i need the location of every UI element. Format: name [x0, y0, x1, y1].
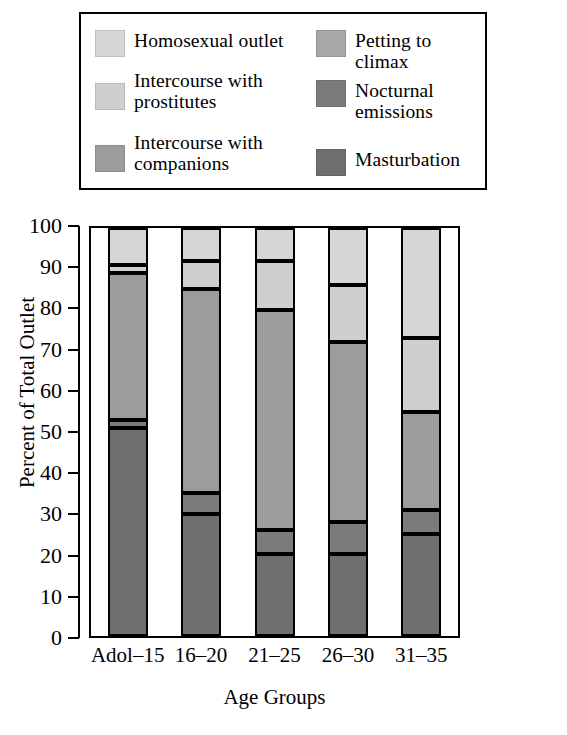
y-axis-tick-label: 0 — [22, 627, 62, 649]
bar-segment — [255, 554, 295, 636]
stacked-bar — [255, 228, 295, 636]
legend-swatch-intercourse-companions — [95, 145, 125, 172]
bar-segment — [401, 338, 441, 411]
bar-segment — [328, 522, 368, 555]
legend-item-nocturnal-emissions: Nocturnal emissions — [316, 80, 486, 122]
bar-segment — [255, 261, 295, 310]
bar-segment — [108, 228, 148, 265]
bar-segment — [255, 228, 295, 261]
bar-segment — [181, 514, 221, 636]
plot-frame — [89, 226, 460, 638]
stacked-bar-plot-area — [91, 228, 458, 636]
legend-swatch-masturbation — [316, 149, 346, 176]
x-axis-tick-label: 31–35 — [376, 643, 466, 668]
y-axis-title: Percent of Total Outlet — [15, 268, 40, 518]
legend-item-intercourse-prostitutes: Intercourse with prostitutes — [95, 70, 263, 112]
x-axis-title: Age Groups — [89, 685, 460, 710]
bar-segment — [108, 428, 148, 636]
bar-segment — [328, 554, 368, 636]
legend-box: Homosexual outlet Intercourse with prost… — [79, 12, 487, 190]
y-axis-tick-label: 20 — [22, 545, 62, 567]
legend-column-right: Petting to climax Nocturnal emissions Ma… — [316, 14, 486, 188]
y-axis-tick — [68, 431, 79, 433]
legend-swatch-nocturnal-emissions — [316, 80, 346, 107]
legend-label-homosexual-outlet: Homosexual outlet — [134, 30, 284, 51]
legend-item-petting-to-climax: Petting to climax — [316, 30, 486, 72]
legend-column-left: Homosexual outlet Intercourse with prost… — [95, 14, 310, 188]
legend-swatch-intercourse-prostitutes — [95, 83, 125, 110]
legend-swatch-petting-to-climax — [316, 30, 346, 57]
y-axis-tick — [68, 349, 79, 351]
legend-label-masturbation: Masturbation — [355, 149, 460, 170]
bar-segment — [181, 228, 221, 261]
stacked-bar — [108, 228, 148, 636]
stacked-bar — [401, 228, 441, 636]
y-axis-tick — [68, 637, 79, 639]
y-axis-tick — [68, 266, 79, 268]
bar-segment — [401, 534, 441, 636]
legend-item-intercourse-companions: Intercourse with companions — [95, 132, 263, 174]
y-axis-tick-label: 100 — [22, 215, 62, 237]
y-axis-tick — [68, 225, 79, 227]
y-axis-tick — [68, 307, 79, 309]
legend-swatch-homosexual-outlet — [95, 30, 125, 57]
legend-item-masturbation: Masturbation — [316, 149, 460, 176]
bar-segment — [255, 530, 295, 554]
x-axis-tick-labels: Adol–1516–2021–2526–3031–35 — [89, 643, 460, 673]
legend-label-intercourse-prostitutes: Intercourse with prostitutes — [134, 70, 263, 112]
legend-label-intercourse-companions: Intercourse with companions — [134, 132, 263, 174]
bar-segment — [401, 228, 441, 338]
bar-segment — [328, 342, 368, 522]
legend-label-nocturnal-emissions: Nocturnal emissions — [355, 80, 486, 122]
bar-segment — [108, 273, 148, 420]
legend-label-petting-to-climax: Petting to climax — [355, 30, 486, 72]
bar-segment — [401, 510, 441, 534]
y-axis-tick — [68, 513, 79, 515]
y-axis-tick — [68, 555, 79, 557]
legend-item-homosexual-outlet: Homosexual outlet — [95, 30, 284, 57]
stacked-bar — [328, 228, 368, 636]
bar-segment — [181, 289, 221, 493]
bar-segment — [108, 420, 148, 428]
bar-segment — [328, 285, 368, 342]
bar-segment — [108, 265, 148, 273]
bar-segment — [181, 261, 221, 290]
bar-segment — [328, 228, 368, 285]
stacked-bar — [181, 228, 221, 636]
bar-segment — [181, 493, 221, 513]
bar-segment — [401, 412, 441, 510]
y-axis-tick-label: 10 — [22, 586, 62, 608]
y-axis-tick — [68, 472, 79, 474]
bar-segment — [255, 310, 295, 530]
y-axis-tick — [68, 390, 79, 392]
y-axis-tick — [68, 596, 79, 598]
